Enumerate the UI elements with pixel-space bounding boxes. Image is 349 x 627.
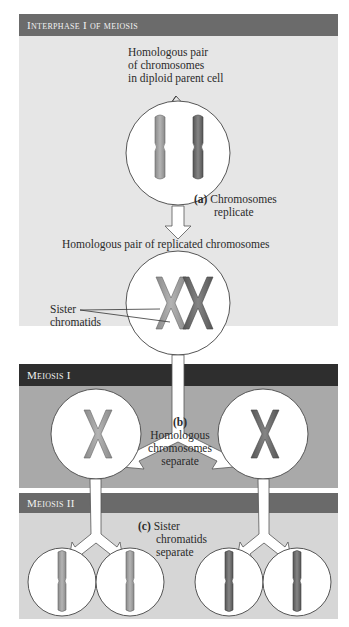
label-step-b: (b) Homologous chromosomes separate [145,416,215,468]
replicated-cell [80,251,230,355]
chromosome-light [155,115,165,179]
parent-cell [126,96,230,205]
label-step-a: (a) Chromosomes replicate [194,193,277,219]
label-homologous-pair: Homologous pair of chromosomes in diploi… [128,46,224,85]
label-sister-chromatids: Sister chromatids [50,303,101,329]
label-step-c: (c) Sister chromatids separate [138,520,207,559]
label-replicated-pair: Homologous pair of replicated chromosome… [62,238,270,251]
chromosome-dark [193,115,203,179]
arrow-replicate [165,206,191,239]
